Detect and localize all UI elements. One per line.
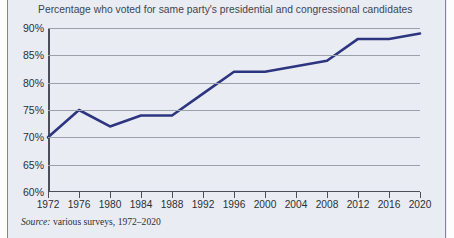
x-tick-label: 1976 <box>68 199 91 210</box>
gridline <box>48 137 420 138</box>
y-tick-label: 80% <box>23 77 44 89</box>
x-tick-mark <box>234 192 235 198</box>
x-tick-label: 2012 <box>347 199 370 210</box>
x-tick-mark <box>110 192 111 198</box>
source-note: Source: various surveys, 1972–2020 <box>21 216 161 227</box>
gridline <box>48 165 420 166</box>
source-label: Source: <box>21 216 50 227</box>
x-tick-mark <box>48 192 49 198</box>
y-tick-label: 90% <box>23 22 44 34</box>
page-rule-right <box>445 0 446 238</box>
x-tick-label: 1984 <box>130 199 153 210</box>
x-tick-label: 1992 <box>192 199 215 210</box>
x-axis-ticks <box>48 192 420 199</box>
y-axis-labels: 60%65%70%75%80%85%90% <box>0 28 44 192</box>
gridline <box>48 28 420 29</box>
x-tick-mark <box>327 192 328 198</box>
series-line <box>48 33 420 137</box>
figure-container: Percentage who voted for same party's pr… <box>0 0 454 238</box>
gridline <box>48 83 420 84</box>
x-tick-label: 2016 <box>378 199 401 210</box>
x-tick-label: 2004 <box>285 199 308 210</box>
y-tick-label: 60% <box>23 186 44 198</box>
x-tick-label: 2000 <box>254 199 277 210</box>
x-tick-mark <box>265 192 266 198</box>
x-axis-labels: 1972197619801984198819921996200020042008… <box>48 199 420 213</box>
x-tick-label: 1988 <box>161 199 184 210</box>
x-tick-label: 1996 <box>223 199 246 210</box>
page-gutter-right <box>447 0 454 238</box>
gridline <box>48 55 420 56</box>
x-tick-label: 1980 <box>99 199 122 210</box>
y-tick-label: 85% <box>23 49 44 61</box>
y-tick-label: 75% <box>23 104 44 116</box>
y-tick-label: 65% <box>23 159 44 171</box>
x-tick-mark <box>79 192 80 198</box>
plot-area <box>48 28 420 192</box>
x-tick-mark <box>203 192 204 198</box>
x-tick-mark <box>296 192 297 198</box>
x-tick-label: 1972 <box>37 199 60 210</box>
x-tick-mark <box>358 192 359 198</box>
figure-title: Percentage who voted for same party's pr… <box>38 4 412 15</box>
x-tick-mark <box>141 192 142 198</box>
x-tick-mark <box>420 192 421 198</box>
gridline <box>48 110 420 111</box>
x-tick-mark <box>172 192 173 198</box>
y-tick-label: 70% <box>23 131 44 143</box>
source-text: various surveys, 1972–2020 <box>50 216 160 227</box>
x-tick-label: 2020 <box>409 199 432 210</box>
x-tick-label: 2008 <box>316 199 339 210</box>
x-tick-mark <box>389 192 390 198</box>
